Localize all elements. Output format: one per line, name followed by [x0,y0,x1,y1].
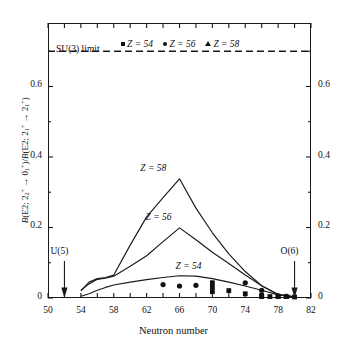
data-point-circle [177,283,182,288]
y-title-sub3: 1 [24,168,30,171]
y-title-arrow1: → 0 [20,171,30,189]
y-title-open1: (E2; 2 [20,196,30,218]
arrow-head-u5 [61,287,67,298]
x-tick-label: 62 [131,305,163,315]
u5-annotation-label: U(5) [50,246,68,256]
legend-label-z54: Z = 54 [127,39,153,49]
legend-entry-z56: Z = 56 [163,39,195,49]
legend-entry-z58: Z = 58 [205,39,239,49]
y-tick-label-right: 0.6 [318,79,330,89]
triangle-marker-icon [205,41,211,46]
su3-limit-label: SU(3) limit [56,44,100,54]
legend-label-z58: Z = 58 [213,39,239,49]
data-point-circle [259,288,264,293]
y-title-sub2: 2 [24,192,30,195]
y-tick-label: 0.6 [16,79,42,89]
y-title-sup2: + [20,165,26,168]
x-tick-label: 70 [196,305,228,315]
x-tick-label: 66 [164,305,196,315]
y-title-arrow2: → 2 [20,107,30,125]
y-title-sup4: + [20,100,26,103]
y-tick-label: 0.2 [16,220,42,230]
y-title-sup3: + [20,125,26,128]
x-tick-label: 78 [262,305,294,315]
y-tick-label: 0 [16,291,42,301]
x-axis-title: Neutron number [0,325,347,336]
square-marker-icon [121,42,125,46]
y-tick-label-right: 0.2 [318,220,330,230]
y-tick-label: 0.4 [16,150,42,160]
data-point-circle [243,280,248,285]
legend-entry-z54: Z = 54 [121,39,153,49]
curve-z-58 [81,179,295,297]
circle-marker-icon [163,42,168,47]
x-tick-label: 54 [65,305,97,315]
chart-canvas [0,0,347,349]
curve-label-z58: Z = 58 [140,163,166,173]
y-title-sup1: + [20,189,26,192]
data-point-square [226,288,231,293]
y-tick-label-right: 0.4 [318,150,330,160]
data-point-square [243,291,248,296]
legend: Z = 54Z = 56Z = 58 [121,39,249,49]
curve-label-z54: Z = 54 [176,261,202,271]
x-tick-label: 58 [98,305,130,315]
curve-label-z56: Z = 56 [146,212,172,222]
data-point-square [268,294,273,299]
y-title-sub5: 1 [24,104,30,107]
o6-annotation-label: O(6) [281,246,299,256]
y-title-sub4: 1 [24,128,30,131]
y-title-close2: ) [20,97,30,100]
data-point-circle [193,283,198,288]
figure-root: SU(3) limit Z = 54Z = 56Z = 58 Z = 58 Z … [0,0,347,349]
x-tick-label: 82 [295,305,327,315]
x-tick-label: 74 [229,305,261,315]
data-point-circle [160,282,165,287]
y-tick-label-right: 0 [318,291,323,301]
legend-label-z56: Z = 56 [169,39,195,49]
x-tick-label: 50 [32,305,64,315]
